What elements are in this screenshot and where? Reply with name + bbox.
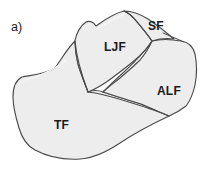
region-label-ljf: LJF — [104, 41, 126, 53]
anatomical-facet-diagram: a) SF LJF ALF TF — [0, 0, 209, 173]
region-label-sf: SF — [148, 20, 164, 32]
region-label-alf: ALF — [157, 85, 181, 97]
panel-letter-label: a) — [11, 21, 22, 34]
region-label-tf: TF — [54, 119, 69, 131]
